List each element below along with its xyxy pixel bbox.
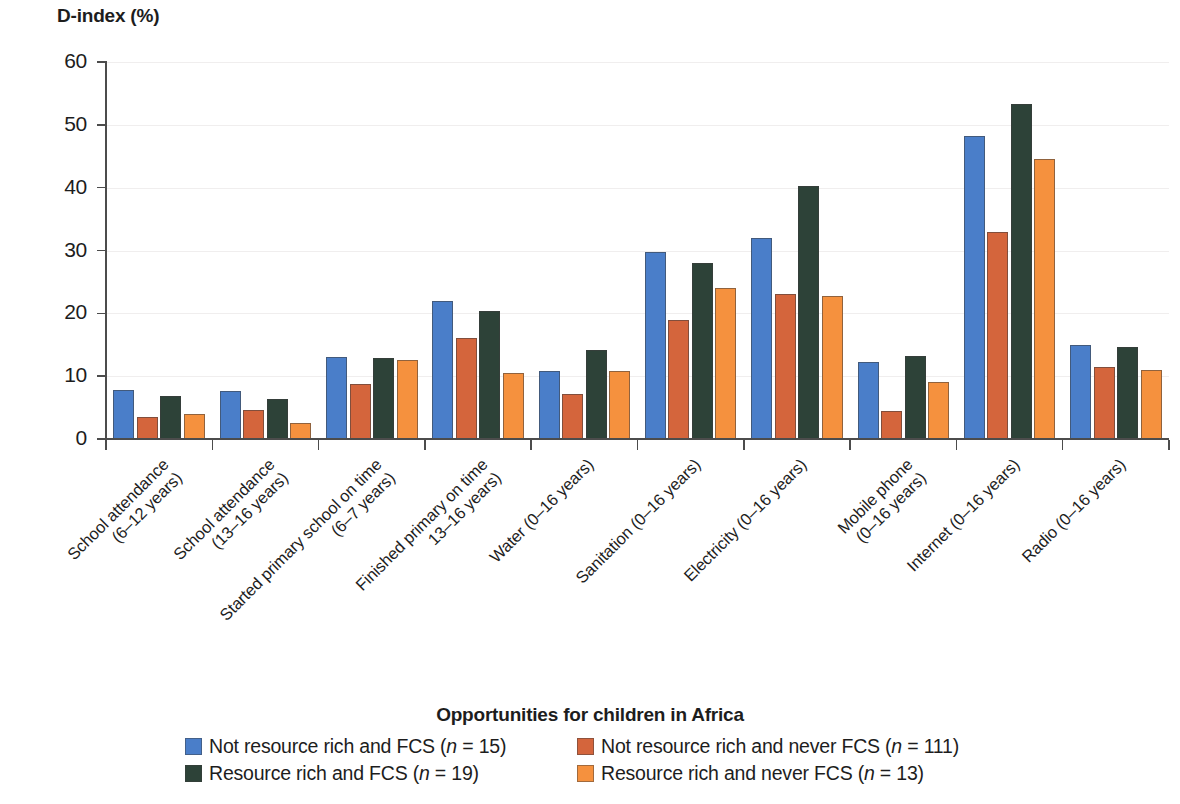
bar	[137, 417, 158, 439]
bar	[1094, 367, 1115, 439]
legend-item[interactable]: Not resource rich and never FCS (n = 111…	[577, 735, 959, 758]
plot-area	[106, 62, 1169, 439]
bar	[1117, 347, 1138, 439]
x-axis-tick	[1168, 440, 1170, 450]
bar	[609, 371, 630, 439]
y-axis-tick-label: 0	[27, 426, 87, 450]
x-axis-tick	[530, 440, 532, 450]
y-axis-tick-label: 50	[27, 112, 87, 136]
bar	[668, 320, 689, 439]
bar	[858, 362, 879, 439]
bar	[1070, 345, 1091, 439]
bar	[1011, 104, 1032, 439]
bar	[326, 357, 347, 439]
y-axis-tick-label: 10	[27, 363, 87, 387]
x-axis-tick	[1062, 440, 1064, 450]
y-axis-tick	[97, 187, 106, 189]
bar	[397, 360, 418, 439]
bar	[539, 371, 560, 439]
gridline	[106, 251, 1169, 252]
bar	[479, 311, 500, 439]
bar	[290, 423, 311, 439]
legend-item-label: Not resource rich and never FCS (n = 111…	[601, 735, 959, 758]
gridline	[106, 188, 1169, 189]
bar	[432, 301, 453, 439]
x-axis-tick	[424, 440, 426, 450]
bar	[267, 399, 288, 439]
x-axis-tick	[956, 440, 958, 450]
y-axis-tick-label: 60	[27, 49, 87, 73]
bar	[373, 358, 394, 439]
bar	[751, 238, 772, 439]
bar	[964, 136, 985, 439]
bar	[503, 373, 524, 439]
bar	[987, 232, 1008, 439]
bar	[881, 411, 902, 439]
bar	[798, 186, 819, 439]
legend-swatch-icon	[185, 765, 202, 782]
gridline	[106, 313, 1169, 314]
bar	[456, 338, 477, 439]
y-axis-tick	[97, 124, 106, 126]
bar	[562, 394, 583, 439]
bar	[715, 288, 736, 439]
bar	[1141, 370, 1162, 439]
x-axis-tick	[849, 440, 851, 450]
gridline	[106, 125, 1169, 126]
bar	[822, 296, 843, 439]
legend: Opportunities for children in Africa Not…	[0, 704, 1180, 789]
bar	[184, 414, 205, 439]
y-axis-tick-label: 30	[27, 238, 87, 262]
bar	[243, 410, 264, 439]
x-axis-tick	[637, 440, 639, 450]
bar	[928, 382, 949, 439]
legend-row: Resource rich and FCS (n = 19)Resource r…	[185, 762, 995, 785]
legend-item[interactable]: Not resource rich and FCS (n = 15)	[185, 735, 577, 758]
legend-row: Not resource rich and FCS (n = 15)Not re…	[185, 735, 995, 758]
legend-swatch-icon	[577, 765, 594, 782]
y-axis-tick	[97, 250, 106, 252]
y-axis-tick	[97, 313, 106, 315]
chart-figure: D-index (%) 0102030405060 School attenda…	[0, 0, 1180, 804]
legend-item[interactable]: Resource rich and never FCS (n = 13)	[577, 762, 924, 785]
x-axis-tick	[743, 440, 745, 450]
bar	[905, 356, 926, 439]
gridline	[106, 62, 1169, 63]
bar	[160, 396, 181, 439]
legend-entries: Not resource rich and FCS (n = 15)Not re…	[185, 735, 995, 785]
bar	[692, 263, 713, 439]
legend-swatch-icon	[577, 738, 594, 755]
y-axis-title: D-index (%)	[57, 5, 159, 27]
x-axis-tick	[318, 440, 320, 450]
bar	[1034, 159, 1055, 439]
bar	[220, 391, 241, 439]
legend-item-label: Resource rich and never FCS (n = 13)	[601, 762, 924, 785]
bar	[586, 350, 607, 439]
y-axis-tick-label: 20	[27, 300, 87, 324]
legend-item[interactable]: Resource rich and FCS (n = 19)	[185, 762, 577, 785]
x-axis-tick	[212, 440, 214, 450]
y-axis-tick-label: 40	[27, 175, 87, 199]
y-axis-tick	[97, 61, 106, 63]
bar	[113, 390, 134, 439]
legend-item-label: Not resource rich and FCS (n = 15)	[209, 735, 506, 758]
y-axis-tick	[97, 375, 106, 377]
legend-item-label: Resource rich and FCS (n = 19)	[209, 762, 479, 785]
bar	[645, 252, 666, 439]
bar	[350, 384, 371, 439]
legend-title: Opportunities for children in Africa	[0, 704, 1180, 726]
bar	[775, 294, 796, 439]
legend-swatch-icon	[185, 738, 202, 755]
gridline	[106, 376, 1169, 377]
x-axis-tick	[105, 440, 107, 450]
